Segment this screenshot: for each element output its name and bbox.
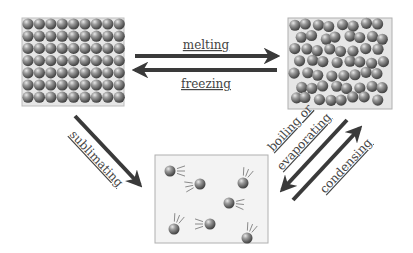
- particle: [91, 55, 102, 66]
- particle: [45, 79, 56, 90]
- particle: [344, 56, 355, 67]
- particle: [79, 67, 90, 78]
- particle: [91, 43, 102, 54]
- particle: [91, 79, 102, 90]
- particle: [68, 92, 79, 103]
- particle: [22, 18, 33, 29]
- particle: [114, 55, 125, 66]
- particle: [331, 81, 342, 92]
- particle: [312, 45, 323, 56]
- particle: [367, 31, 378, 42]
- particle: [114, 31, 125, 42]
- particle: [335, 46, 346, 57]
- particle: [165, 166, 176, 177]
- solid-state: [22, 18, 125, 106]
- particle: [45, 31, 56, 42]
- particle: [224, 198, 235, 209]
- particle: [68, 18, 79, 29]
- particle: [348, 21, 359, 32]
- particle: [361, 18, 372, 29]
- particle: [372, 95, 383, 106]
- gas-state: [155, 155, 268, 244]
- particle: [296, 32, 307, 43]
- particle: [371, 68, 382, 79]
- particle: [102, 79, 113, 90]
- particle: [372, 44, 383, 55]
- particle: [34, 31, 45, 42]
- particle: [68, 43, 79, 54]
- particle: [377, 82, 388, 93]
- particle: [347, 91, 358, 102]
- particle: [114, 92, 125, 103]
- particle: [22, 79, 33, 90]
- particle: [359, 91, 370, 102]
- particle: [347, 46, 358, 57]
- particle: [338, 70, 349, 81]
- particle: [57, 79, 68, 90]
- particle: [354, 56, 365, 67]
- particle: [79, 79, 90, 90]
- particle: [169, 224, 180, 235]
- particle: [360, 67, 371, 78]
- particle: [195, 179, 206, 190]
- particle: [349, 69, 360, 80]
- particle: [57, 67, 68, 78]
- particle: [367, 81, 378, 92]
- particle: [79, 18, 90, 29]
- particle: [102, 92, 113, 103]
- particle: [68, 31, 79, 42]
- particle: [289, 43, 300, 54]
- particle: [91, 18, 102, 29]
- particle: [45, 43, 56, 54]
- particle: [57, 55, 68, 66]
- particle: [313, 19, 324, 30]
- particle: [102, 67, 113, 78]
- particle: [102, 43, 113, 54]
- particle: [45, 55, 56, 66]
- particle: [377, 34, 388, 45]
- particle: [45, 67, 56, 78]
- particle: [360, 43, 371, 54]
- particle: [102, 55, 113, 66]
- particle: [68, 67, 79, 78]
- particle: [79, 31, 90, 42]
- particle: [301, 43, 312, 54]
- particle: [22, 43, 33, 54]
- particle: [79, 55, 90, 66]
- particle: [22, 67, 33, 78]
- particle: [299, 92, 310, 103]
- particle: [114, 79, 125, 90]
- particle: [307, 55, 318, 66]
- particle: [323, 21, 334, 32]
- melting-label: melting: [183, 38, 230, 52]
- particle: [57, 92, 68, 103]
- particle: [34, 79, 45, 90]
- particle: [34, 43, 45, 54]
- particle: [317, 80, 328, 91]
- particle: [336, 95, 347, 106]
- particle: [79, 92, 90, 103]
- particle: [57, 31, 68, 42]
- particle: [344, 30, 355, 41]
- particle: [114, 18, 125, 29]
- particle: [57, 18, 68, 29]
- particle: [300, 18, 311, 29]
- particle: [317, 56, 328, 67]
- liquid-state: [288, 18, 392, 109]
- particle: [329, 31, 340, 42]
- particle: [114, 67, 125, 78]
- particle: [326, 70, 337, 81]
- particle: [91, 31, 102, 42]
- particle: [332, 57, 343, 68]
- particle: [102, 18, 113, 29]
- particle: [314, 94, 325, 105]
- particle: [45, 92, 56, 103]
- particle: [372, 18, 383, 29]
- particle: [22, 55, 33, 66]
- particle: [242, 233, 253, 244]
- particle: [57, 43, 68, 54]
- freezing-label: freezing: [181, 77, 231, 91]
- particle: [114, 43, 125, 54]
- phase-diagram: melting freezing sublimating boiling or …: [0, 0, 413, 253]
- particle: [91, 92, 102, 103]
